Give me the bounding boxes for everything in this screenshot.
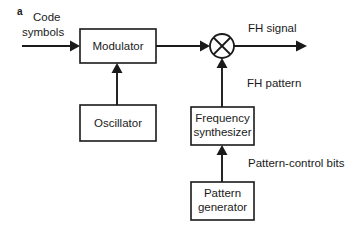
block-pattern-generator-label-line2: generator	[198, 201, 247, 213]
signal-label-code-symbols-line1: Code	[33, 11, 61, 23]
arrowhead-modulator-to-mixer	[200, 41, 210, 52]
block-oscillator[interactable]: Oscillator	[80, 105, 156, 141]
block-diagram-figure: Modulator Oscillator Frequency synthesiz…	[0, 0, 356, 236]
block-pattern-generator-label-line1: Pattern	[204, 187, 241, 199]
diagram-canvas: Modulator Oscillator Frequency synthesiz…	[0, 0, 356, 236]
arrowhead-generator-to-synthesizer	[217, 145, 228, 155]
block-modulator-label: Modulator	[92, 40, 143, 52]
arrowhead-oscillator-to-modulator	[112, 63, 123, 73]
signal-label-fh-signal: FH signal	[248, 22, 297, 34]
signal-label-pattern-control-bits: Pattern-control bits	[248, 157, 345, 169]
block-frequency-synthesizer-label-line1: Frequency	[195, 112, 250, 124]
block-frequency-synthesizer[interactable]: Frequency synthesizer	[191, 107, 254, 145]
panel-letter-label: a	[17, 6, 23, 17]
arrowhead-synthesizer-to-mixer	[217, 58, 228, 68]
arrowhead-fh-signal-output	[296, 41, 307, 52]
mixer-symbol[interactable]	[210, 34, 234, 58]
arrowhead-input-to-modulator	[70, 41, 80, 52]
block-oscillator-label: Oscillator	[94, 117, 142, 129]
block-modulator[interactable]: Modulator	[80, 29, 156, 63]
signal-label-fh-pattern: FH pattern	[247, 77, 301, 89]
block-frequency-synthesizer-label-line2: synthesizer	[193, 126, 251, 138]
signal-label-code-symbols-line2: symbols	[22, 26, 64, 38]
block-pattern-generator[interactable]: Pattern generator	[191, 182, 254, 220]
